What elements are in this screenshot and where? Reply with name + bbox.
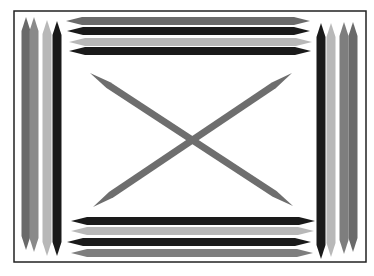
stick bbox=[340, 22, 349, 254]
stick bbox=[71, 227, 314, 235]
stick bbox=[327, 23, 336, 257]
stick bbox=[71, 217, 315, 225]
stick bbox=[69, 47, 311, 55]
bottom-sticks bbox=[67, 217, 315, 257]
stick bbox=[53, 21, 62, 256]
stick bbox=[66, 17, 310, 25]
stick-frame-illustration bbox=[0, 0, 374, 276]
stick bbox=[67, 27, 310, 35]
stick bbox=[71, 249, 313, 257]
stick bbox=[69, 38, 312, 46]
stick bbox=[43, 20, 52, 256]
stick bbox=[349, 22, 358, 252]
stick bbox=[317, 23, 326, 259]
top-sticks bbox=[66, 17, 312, 55]
right-sticks bbox=[317, 22, 358, 259]
stick bbox=[30, 17, 39, 252]
crossed-sticks bbox=[90, 73, 293, 207]
stick bbox=[22, 17, 31, 250]
left-sticks bbox=[22, 17, 62, 256]
stick bbox=[67, 238, 311, 246]
